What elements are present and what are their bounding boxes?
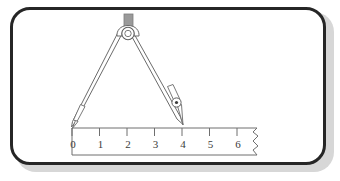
compass-left-joint <box>74 105 86 122</box>
ruler-label-3: 3 <box>153 138 159 150</box>
ruler-label-2: 2 <box>125 138 131 150</box>
ruler-label-1: 1 <box>98 138 104 150</box>
compass-right-leg <box>129 31 184 125</box>
compass-hinge-inner-ring <box>125 30 131 36</box>
compass-thumb-screw-center-dot <box>175 101 178 104</box>
ruler-label-0: 0 <box>70 138 76 150</box>
ruler-label-6: 6 <box>235 138 241 150</box>
compass-and-ruler-illustration: 0 1 2 3 4 5 6 <box>0 0 340 181</box>
figure-screenshot: 0 1 2 3 4 5 6 <box>0 0 340 181</box>
ruler: 0 1 2 3 4 5 6 <box>70 128 258 155</box>
ruler-label-5: 5 <box>208 138 214 150</box>
ruler-label-4: 4 <box>180 138 186 150</box>
drawing-compass <box>72 14 184 129</box>
